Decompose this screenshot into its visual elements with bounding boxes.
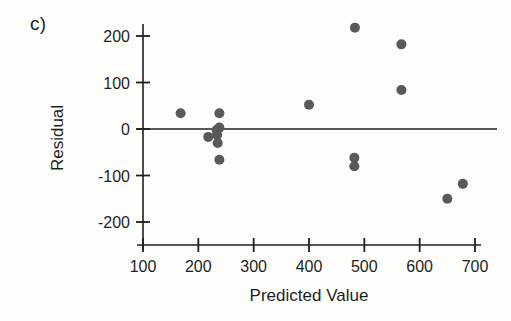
scatter-point [213,138,223,148]
scatter-point [458,179,468,189]
scatter-point [396,85,406,95]
scatter-point [349,161,359,171]
y-tick-label: -200 [98,214,130,231]
x-tick-label: 200 [185,258,212,275]
x-tick-label: 700 [462,258,489,275]
y-tick-label: 200 [103,28,130,45]
x-tick-label: 100 [130,258,157,275]
scatter-point [176,108,186,118]
scatter-point [304,100,314,110]
data-points [176,23,468,204]
residual-plot-figure: c) Residual Predicted Value 2001000-100-… [0,0,511,321]
scatter-point [214,108,224,118]
x-tick-label: 400 [296,258,323,275]
x-tick-label: 600 [406,258,433,275]
scatter-plot-canvas: 2001000-100-200 100200300400500600700 [0,0,511,321]
scatter-point [214,123,224,133]
y-tick-label: 0 [121,121,130,138]
scatter-point [350,23,360,33]
y-tick-label: 100 [103,75,130,92]
y-tick-label: -100 [98,168,130,185]
y-axis: 2001000-100-200 [98,24,150,250]
x-tick-label: 300 [240,258,267,275]
x-axis: 100200300400500600700 [130,238,489,275]
scatter-point [203,132,213,142]
scatter-point [214,155,224,165]
x-tick-label: 500 [351,258,378,275]
scatter-point [396,39,406,49]
scatter-point [442,194,452,204]
